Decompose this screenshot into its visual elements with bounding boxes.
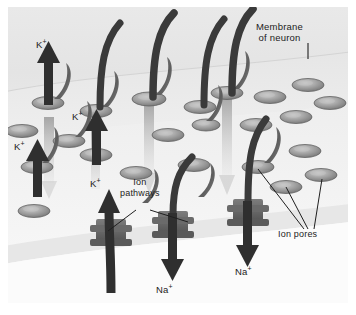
ion-pathways-line2: pathways: [120, 188, 160, 199]
ion-pores-label: Ion pores: [278, 229, 317, 240]
ion-pore: [289, 145, 321, 158]
ion-pore: [292, 79, 324, 92]
ion-pore: [152, 129, 184, 142]
k-plus-label: K+: [14, 138, 25, 152]
ion-pore: [192, 119, 220, 131]
k-plus-label: K+: [36, 36, 47, 50]
ion-pore: [184, 101, 216, 114]
figure-root: Membrane of neuron Ion pathways Ion pore…: [0, 0, 356, 315]
membrane-of-neuron-label: Membrane of neuron: [256, 21, 303, 43]
membrane-label-line1: Membrane: [256, 21, 303, 32]
ion-pore: [280, 111, 312, 124]
ion-pore: [8, 125, 38, 138]
na-plus-label: Na+: [156, 281, 173, 295]
ion-pore: [254, 91, 286, 104]
membrane-label-line2: of neuron: [256, 32, 303, 43]
ion-pore: [305, 169, 337, 182]
membrane-illustration: [8, 7, 348, 303]
ion-pore: [18, 205, 50, 218]
illustration-panel: Membrane of neuron Ion pathways Ion pore…: [8, 7, 348, 303]
ion-pathways-line1: Ion: [120, 177, 160, 188]
k-plus-label: K+: [90, 175, 101, 189]
na-plus-label: Na+: [235, 263, 252, 277]
ion-pore: [314, 97, 346, 110]
k-plus-label: K+: [72, 108, 83, 122]
ion-pathways-label: Ion pathways: [120, 177, 160, 199]
